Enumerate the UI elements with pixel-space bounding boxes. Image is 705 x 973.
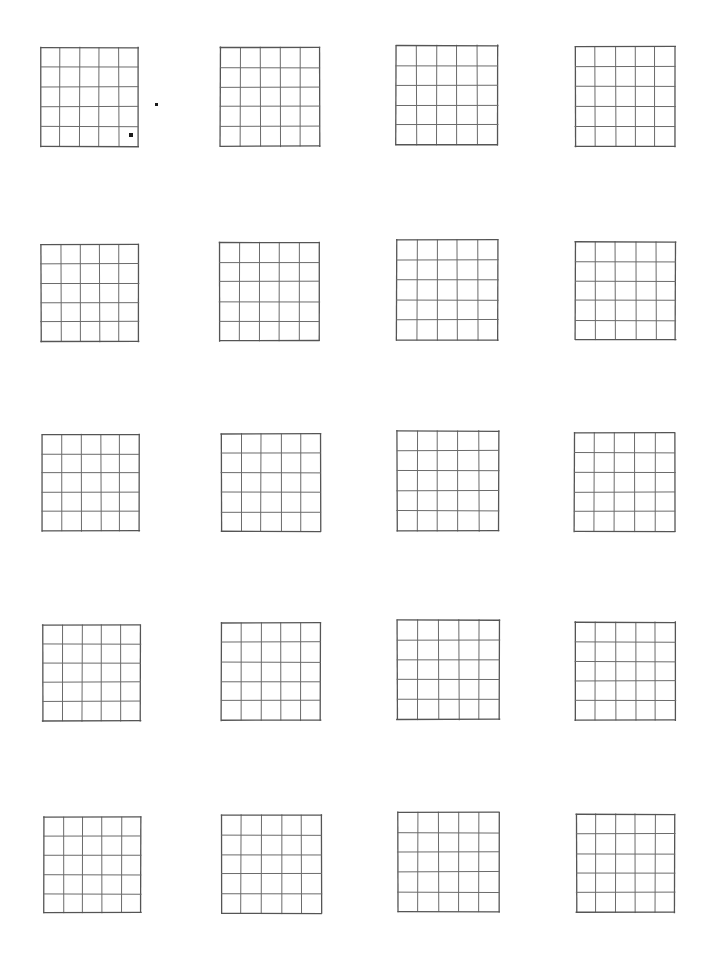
grid-drawing: [395, 618, 501, 722]
grid-drawing: [573, 45, 677, 148]
grid-3-3[interactable]: [397, 431, 499, 531]
grid-2-1[interactable]: [41, 245, 139, 341]
grid-3-1[interactable]: [42, 435, 139, 531]
grid-drawing: [394, 43, 500, 147]
grid-drawing: [218, 46, 322, 148]
grid-1-4[interactable]: [575, 47, 675, 146]
grid-drawing: [220, 813, 323, 915]
grid-drawing: [573, 431, 677, 533]
grid-drawing: [574, 812, 677, 914]
grid-3-2[interactable]: [221, 434, 320, 531]
grid-5-2[interactable]: [222, 815, 321, 913]
worksheet-page: Blank 5x5 Grid Worksheet: [0, 0, 705, 973]
grid-drawing: [39, 243, 141, 343]
grid-4-3[interactable]: [397, 620, 499, 720]
grid-1-1[interactable]: [41, 48, 138, 146]
mark-dot: [155, 103, 158, 106]
grid-drawing: [395, 238, 500, 342]
grid-drawing: [42, 815, 143, 915]
grid-2-3[interactable]: [397, 240, 498, 340]
grid-drawing: [41, 623, 142, 723]
grid-1-2[interactable]: [220, 48, 320, 146]
mark-dot: [129, 133, 133, 137]
grid-drawing: [218, 241, 321, 343]
grid-3-4[interactable]: [575, 433, 675, 531]
grid-2-2[interactable]: [220, 243, 319, 341]
grid-4-2[interactable]: [221, 623, 320, 720]
grid-drawing: [396, 810, 501, 914]
grid-5-3[interactable]: [398, 812, 499, 912]
grid-4-1[interactable]: [43, 625, 140, 721]
grid-1-3[interactable]: [396, 45, 498, 145]
grid-drawing: [40, 433, 141, 533]
grid-5-1[interactable]: [44, 817, 141, 913]
grid-drawing: [219, 432, 322, 533]
grid-drawing: [573, 240, 677, 342]
grid-drawing: [395, 429, 501, 533]
grid-4-4[interactable]: [575, 622, 675, 720]
grid-drawing: [573, 620, 677, 722]
grid-drawing: [219, 621, 322, 722]
grid-drawing: [39, 46, 140, 148]
page-title: Blank 5x5 Grid Worksheet: [0, 0, 1, 1]
grid-2-4[interactable]: [575, 242, 675, 340]
grid-5-4[interactable]: [576, 814, 675, 912]
